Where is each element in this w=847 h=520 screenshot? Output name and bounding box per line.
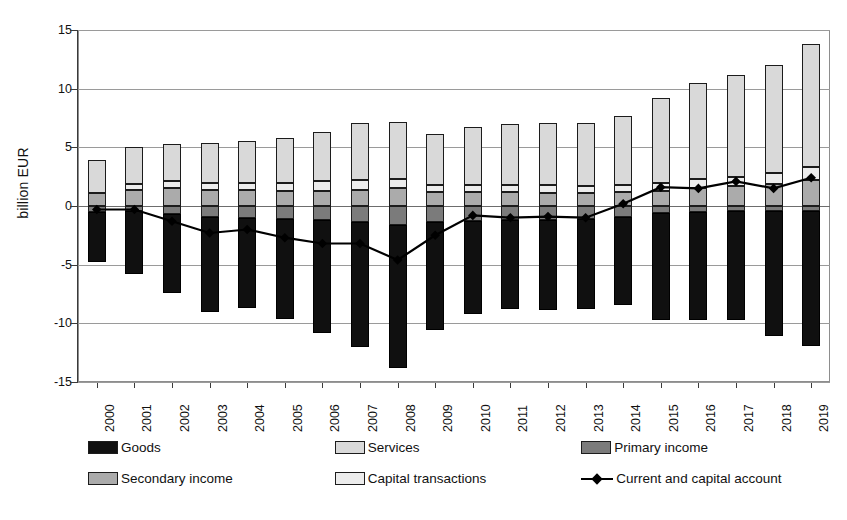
x-tick-2001	[134, 383, 135, 388]
legend-swatch-goods	[88, 441, 118, 454]
x-axis-label-2000: 2000	[103, 404, 117, 432]
x-tick-2007	[360, 383, 361, 388]
x-tick-2011	[510, 383, 511, 388]
x-axis-label-2010: 2010	[479, 404, 493, 432]
line-marker-2019[interactable]	[806, 173, 816, 183]
y-tick-10	[70, 89, 78, 90]
y-tick-label: 0	[38, 200, 72, 212]
x-axis-label-2002: 2002	[178, 404, 192, 432]
y-tick-label: -15	[38, 376, 72, 388]
legend-item-capital[interactable]: Capital transactions	[335, 471, 582, 486]
legend-item-services[interactable]: Services	[335, 440, 582, 455]
x-axis-label-2003: 2003	[216, 404, 230, 432]
legend-row-2: Secondary incomeCapital transactionsCurr…	[88, 471, 828, 486]
x-tick-2005	[285, 383, 286, 388]
x-axis-label-2005: 2005	[291, 404, 305, 432]
x-axis-label-2007: 2007	[366, 404, 380, 432]
x-axis-label-2009: 2009	[441, 404, 455, 432]
line-marker-2000[interactable]	[92, 205, 102, 215]
x-axis-label-2001: 2001	[140, 404, 154, 432]
x-axis-label-2014: 2014	[629, 404, 643, 432]
legend-swatch-secondary	[88, 472, 118, 485]
x-tick-2015	[661, 383, 662, 388]
x-axis-label-2016: 2016	[704, 404, 718, 432]
chart-legend: GoodsServicesPrimary income Secondary in…	[88, 440, 828, 502]
chart-container: billion EUR 151050-5-10-15 2000200120022…	[0, 0, 847, 520]
legend-item-goods[interactable]: Goods	[88, 440, 335, 455]
line-series-current-and-capital-account	[78, 30, 830, 382]
plot-area	[78, 30, 830, 382]
line-marker-2004[interactable]	[242, 225, 252, 235]
line-marker-2012[interactable]	[543, 212, 553, 222]
gridline--15	[78, 382, 830, 383]
x-tick-2002	[172, 383, 173, 388]
line-marker-2017[interactable]	[731, 177, 741, 187]
legend-label: Primary income	[614, 440, 708, 455]
x-axis-label-2015: 2015	[667, 404, 681, 432]
legend-swatch-primary	[581, 441, 611, 454]
line-marker-2001[interactable]	[130, 205, 140, 215]
line-marker-2013[interactable]	[581, 213, 591, 223]
legend-label: Capital transactions	[368, 471, 487, 486]
line-marker-2018[interactable]	[769, 184, 779, 194]
x-tick-2003	[210, 383, 211, 388]
x-axis-label-2012: 2012	[554, 404, 568, 432]
y-tick--10	[70, 323, 78, 324]
legend-item-secondary[interactable]: Secondary income	[88, 471, 335, 486]
legend-line-marker-icon	[581, 472, 613, 485]
line-marker-2003[interactable]	[205, 228, 215, 238]
x-tick-2009	[435, 383, 436, 388]
line-marker-2006[interactable]	[318, 239, 328, 249]
legend-label: Goods	[121, 440, 161, 455]
legend-label: Current and capital account	[616, 471, 781, 486]
y-tick-5	[70, 147, 78, 148]
x-tick-2014	[623, 383, 624, 388]
y-tick-15	[70, 30, 78, 31]
line-marker-2010[interactable]	[468, 211, 478, 221]
line-marker-2011[interactable]	[506, 213, 516, 223]
legend-swatch-services	[335, 441, 365, 454]
x-axis-label-2011: 2011	[516, 405, 530, 432]
line-path	[97, 178, 811, 260]
y-axis-labels: 151050-5-10-15	[28, 0, 72, 520]
y-tick-label: 15	[38, 24, 72, 36]
y-tick-label: 10	[38, 83, 72, 95]
x-tick-2018	[774, 383, 775, 388]
x-axis-label-2004: 2004	[253, 404, 267, 432]
line-marker-2007[interactable]	[355, 239, 365, 249]
y-tick-label: 5	[38, 141, 72, 153]
x-tick-2008	[398, 383, 399, 388]
legend-swatch-capital	[335, 472, 365, 485]
x-axis-label-2008: 2008	[404, 404, 418, 432]
legend-row-1: GoodsServicesPrimary income	[88, 440, 828, 455]
legend-label: Secondary income	[121, 471, 233, 486]
x-axis-label-2018: 2018	[780, 404, 794, 432]
line-marker-2014[interactable]	[618, 199, 628, 209]
line-marker-2016[interactable]	[694, 184, 704, 194]
line-marker-2015[interactable]	[656, 182, 666, 192]
x-tick-2019	[811, 383, 812, 388]
line-marker-2002[interactable]	[167, 216, 177, 226]
line-marker-2005[interactable]	[280, 233, 290, 243]
x-tick-2017	[736, 383, 737, 388]
y-tick-label: -5	[38, 259, 72, 271]
x-tick-2000	[97, 383, 98, 388]
x-tick-2016	[698, 383, 699, 388]
legend-item-primary[interactable]: Primary income	[581, 440, 828, 455]
x-tick-2006	[322, 383, 323, 388]
legend-label: Services	[368, 440, 420, 455]
y-tick-label: -10	[38, 317, 72, 329]
y-tick--15	[70, 382, 78, 383]
x-tick-2004	[247, 383, 248, 388]
legend-item-line[interactable]: Current and capital account	[581, 471, 828, 486]
x-axis-label-2019: 2019	[817, 404, 831, 432]
y-tick--5	[70, 265, 78, 266]
x-tick-2013	[586, 383, 587, 388]
x-axis-label-2006: 2006	[328, 404, 342, 432]
y-tick-0	[70, 206, 78, 207]
x-tick-2010	[473, 383, 474, 388]
x-axis-label-2017: 2017	[742, 404, 756, 432]
x-tick-2012	[548, 383, 549, 388]
x-axis-label-2013: 2013	[592, 404, 606, 432]
